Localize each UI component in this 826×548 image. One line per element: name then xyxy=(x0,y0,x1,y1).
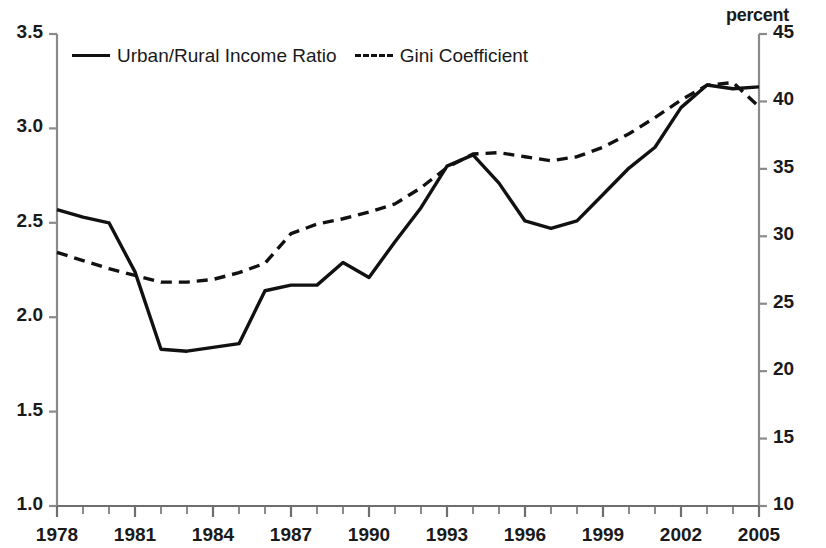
chart-container: percent Urban/Rural Income Ratio Gini Co… xyxy=(0,0,826,548)
y-axis-right-tick-label: 40 xyxy=(773,88,819,110)
x-axis-tick-label: 1984 xyxy=(192,524,234,546)
x-axis-tick-label: 1993 xyxy=(426,524,468,546)
x-axis-tick-label: 1981 xyxy=(114,524,156,546)
solid-line-swatch-icon xyxy=(72,54,110,57)
y-axis-left-tick-label: 2.0 xyxy=(0,304,43,326)
y-axis-left-tick-label: 1.5 xyxy=(0,399,43,421)
y-axis-right-tick-label: 45 xyxy=(773,21,819,43)
y-axis-right-tick-label: 35 xyxy=(773,156,819,178)
y-axis-left-tick-label: 2.5 xyxy=(0,210,43,232)
y-axis-right-tick-label: 30 xyxy=(773,223,819,245)
legend-item-gini-coefficient: Gini Coefficient xyxy=(355,46,529,65)
y-axis-right-tick-label: 20 xyxy=(773,358,819,380)
y-axis-left-tick-label: 3.0 xyxy=(0,115,43,137)
legend-label-urban-rural-income-ratio: Urban/Rural Income Ratio xyxy=(117,46,337,65)
legend-item-urban-rural-income-ratio: Urban/Rural Income Ratio xyxy=(72,46,337,65)
chart-legend: Urban/Rural Income Ratio Gini Coefficien… xyxy=(72,46,528,65)
y-axis-left-tick-label: 1.0 xyxy=(0,493,43,515)
x-axis-tick-label: 2005 xyxy=(738,524,780,546)
legend-label-gini-coefficient: Gini Coefficient xyxy=(400,46,529,65)
y-axis-right-tick-label: 15 xyxy=(773,426,819,448)
x-axis-tick-label: 1978 xyxy=(36,524,78,546)
x-axis-tick-label: 1987 xyxy=(270,524,312,546)
x-axis-tick-label: 1999 xyxy=(582,524,624,546)
series-line-urban-rural-income-ratio xyxy=(57,85,759,351)
x-axis-tick-label: 1996 xyxy=(504,524,546,546)
y-axis-right-tick-label: 10 xyxy=(773,493,819,515)
x-axis-tick-label: 2002 xyxy=(660,524,702,546)
y-axis-right-tick-label: 25 xyxy=(773,291,819,313)
axis-tick-marks xyxy=(49,34,767,517)
axis-lines xyxy=(57,34,759,506)
y-axis-left-tick-label: 3.5 xyxy=(0,21,43,43)
x-axis-tick-label: 1990 xyxy=(348,524,390,546)
data-series-lines xyxy=(57,83,759,352)
dashed-line-swatch-icon xyxy=(355,54,393,57)
plot-area xyxy=(0,0,826,548)
series-line-gini-coefficient xyxy=(57,83,759,283)
